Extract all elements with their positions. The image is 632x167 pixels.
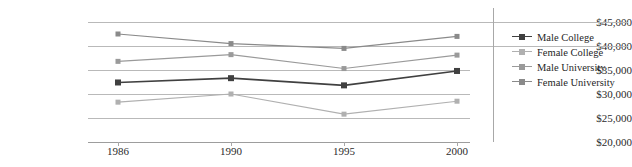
legend-marker-icon	[512, 47, 532, 57]
legend-label: Male College	[537, 32, 594, 43]
series-line	[118, 55, 457, 69]
legend-label: Female University	[537, 77, 615, 88]
data-point-marker[interactable]	[455, 34, 460, 39]
data-point-marker[interactable]	[229, 41, 234, 46]
data-point-marker[interactable]	[342, 66, 347, 71]
data-point-marker[interactable]	[455, 99, 460, 104]
data-point-marker[interactable]	[116, 59, 121, 64]
legend-item-male-college[interactable]: Male College	[512, 30, 632, 44]
legend-marker-icon	[512, 77, 532, 87]
legend-marker-icon	[512, 32, 532, 42]
legend-item-male-university[interactable]: Male University	[512, 60, 632, 74]
series-line	[118, 71, 457, 85]
series-line	[118, 94, 457, 114]
data-point-marker[interactable]	[342, 46, 347, 51]
chart-legend: Male College Female College Male Univers…	[512, 30, 632, 90]
data-point-marker[interactable]	[342, 112, 347, 117]
series-line	[118, 34, 457, 48]
data-point-marker[interactable]	[115, 79, 121, 85]
data-point-marker[interactable]	[454, 68, 460, 74]
data-point-marker[interactable]	[341, 82, 347, 88]
data-point-marker[interactable]	[229, 92, 234, 97]
data-point-marker[interactable]	[116, 32, 121, 37]
line-chart: $45,000 $40,000 $35,000 $30,000 $25,000 …	[0, 0, 632, 167]
legend-label: Male University	[537, 62, 606, 73]
data-point-marker[interactable]	[229, 52, 234, 57]
legend-marker-icon	[512, 62, 532, 72]
legend-separator	[493, 8, 494, 142]
data-point-marker[interactable]	[455, 53, 460, 58]
legend-item-female-college[interactable]: Female College	[512, 45, 632, 59]
data-point-marker[interactable]	[116, 100, 121, 105]
legend-label: Female College	[537, 47, 603, 58]
legend-item-female-university[interactable]: Female University	[512, 75, 632, 89]
data-point-marker[interactable]	[228, 75, 234, 81]
